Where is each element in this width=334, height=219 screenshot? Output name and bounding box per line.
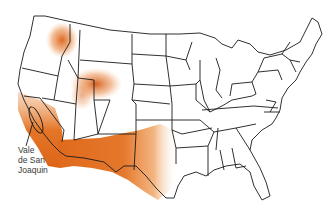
callout-label-san-joaquin-valley: Vale de San Joaquin <box>18 145 48 175</box>
us-map <box>0 0 334 219</box>
callout-line-2: de San <box>18 155 48 165</box>
callout-line-3: Joaquin <box>18 165 48 175</box>
callout-line-1: Vale <box>18 145 48 155</box>
